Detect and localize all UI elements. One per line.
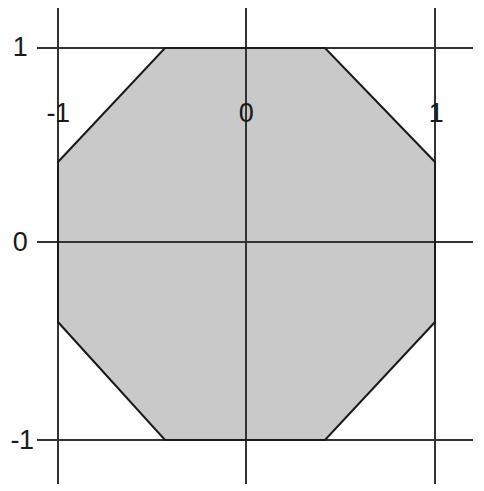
- y-tick-label-bottom: -1: [10, 427, 33, 454]
- y-tick-label-mid: 0: [13, 229, 28, 256]
- figure-container: 1 0 -1 -1 0 1: [0, 0, 484, 491]
- x-tick-label-mid: 0: [239, 100, 254, 127]
- x-tick-label-right: 1: [429, 100, 444, 127]
- x-tick-label-left: -1: [46, 100, 69, 127]
- plot-canvas: [0, 0, 484, 491]
- y-tick-label-top: 1: [13, 34, 28, 61]
